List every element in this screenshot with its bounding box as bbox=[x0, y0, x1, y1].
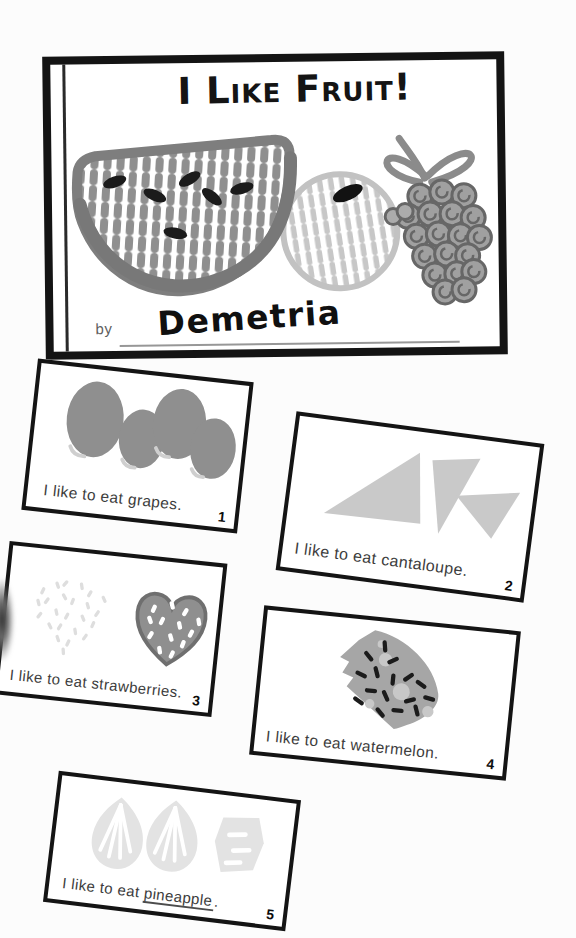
book-title: I Like Fruit! bbox=[98, 64, 491, 115]
book-page-1: I like to eat grapes. 1 bbox=[21, 359, 253, 534]
scan-artifact bbox=[0, 578, 14, 662]
book-page-2: I like to eat cantaloupe. 2 bbox=[276, 411, 545, 602]
grapes-cover-drawing bbox=[384, 137, 492, 304]
book-cover: I Like Fruit! bbox=[42, 51, 508, 360]
book-page-5: I like to eat pineapple. 5 bbox=[43, 771, 301, 931]
cover-fruit-illustration bbox=[51, 129, 499, 320]
page-number: 4 bbox=[486, 756, 495, 773]
page-number: 3 bbox=[191, 692, 200, 709]
by-label: by bbox=[95, 320, 112, 337]
book-page-4: I like to eat watermelon. 4 bbox=[249, 605, 521, 780]
watermelon-cover-drawing bbox=[76, 140, 292, 293]
book-page-3: I like to eat strawberries. 3 bbox=[0, 541, 227, 717]
cantaloupe-cover-drawing bbox=[283, 174, 398, 289]
